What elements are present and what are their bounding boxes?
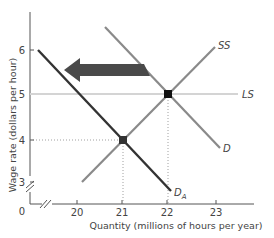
x-tick-20: 20 xyxy=(71,207,84,218)
y-tick-4: 4 xyxy=(19,135,25,146)
da-label: DA xyxy=(174,187,187,201)
ls-label: LS xyxy=(242,89,255,100)
origin-label: 0 xyxy=(19,206,25,217)
y-axis-break-2 xyxy=(26,185,34,192)
d-label: D xyxy=(223,143,231,154)
y-axis-title: Wage rate (dollars per hour) xyxy=(7,58,18,193)
equilibrium-point-original xyxy=(164,90,172,98)
guide-lines xyxy=(30,94,168,204)
labor-market-chart: Wage rate (dollars per hour) 6 5 4 3 0 2… xyxy=(0,0,274,238)
x-tick-23: 23 xyxy=(210,207,223,218)
y-tick-5: 5 xyxy=(19,89,25,100)
d-curve xyxy=(105,27,220,148)
y-tick-6: 6 xyxy=(19,45,25,56)
equilibrium-point-new xyxy=(119,136,127,144)
y-tick-3: 3 xyxy=(19,177,25,188)
x-axis-break-2 xyxy=(44,200,51,208)
x-tick-21: 21 xyxy=(116,207,129,218)
x-tick-22: 22 xyxy=(161,207,174,218)
ss-label: SS xyxy=(218,40,231,51)
da-label-sub: A xyxy=(181,193,187,201)
x-axis-title: Quantity (millions of hours per year) xyxy=(90,220,263,231)
